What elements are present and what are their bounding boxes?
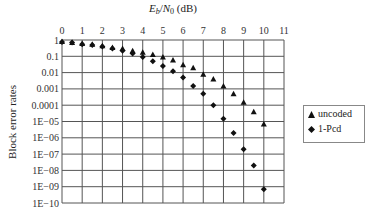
y-tick-label: 1E−07 <box>32 149 59 160</box>
y-tick-label: 1E−08 <box>32 165 59 176</box>
y-tick-label: 1E−06 <box>32 132 59 143</box>
y-tick-label: 0.001 <box>37 83 60 94</box>
diamond-marker-icon <box>308 126 315 133</box>
x-tick-label: 7 <box>201 25 206 36</box>
triangle-marker-icon <box>241 99 247 105</box>
diamond-marker-icon <box>130 50 136 56</box>
diamond-marker-icon <box>231 130 237 136</box>
y-axis-title: Block error rates <box>6 85 18 159</box>
triangle-marker-icon <box>251 109 257 115</box>
x-tick-label: 0 <box>60 25 65 36</box>
diamond-marker-icon <box>200 91 206 97</box>
triangle-marker-icon <box>308 111 315 118</box>
legend-label: 1-Pcd <box>318 123 341 134</box>
triangle-marker-icon <box>210 76 216 82</box>
x-tick-label: 4 <box>140 25 145 36</box>
diamond-marker-icon <box>109 46 115 52</box>
legend-item-uncoded: uncoded <box>304 106 364 121</box>
x-tick-label: 6 <box>181 25 186 36</box>
triangle-marker-icon <box>200 71 206 77</box>
y-tick-label: 0.1 <box>47 51 60 62</box>
legend-label: uncoded <box>318 108 352 119</box>
diamond-marker-icon <box>251 162 257 168</box>
diamond-marker-icon <box>150 58 156 64</box>
diamond-marker-icon <box>220 116 226 122</box>
x-tick-label: 5 <box>160 25 165 36</box>
y-tick-label: 1 <box>54 35 59 46</box>
triangle-marker-icon <box>190 65 196 71</box>
x-tick-label: 10 <box>259 25 269 36</box>
triangle-marker-icon <box>220 83 226 89</box>
diamond-marker-icon <box>79 41 85 47</box>
y-tick-label: 1E−10 <box>32 198 59 209</box>
triangle-marker-icon <box>231 91 237 97</box>
x-tick-label: 1 <box>80 25 85 36</box>
x-axis-title: Eb/N0 (dB) <box>148 2 197 16</box>
y-tick-label: 0.01 <box>42 67 60 78</box>
diamond-marker-icon <box>140 54 146 60</box>
x-tick-label: 9 <box>241 25 246 36</box>
diamond-marker-icon <box>190 83 196 89</box>
diamond-marker-icon <box>89 42 95 48</box>
diamond-marker-icon <box>160 63 166 69</box>
diamond-marker-icon <box>170 68 176 74</box>
x-tick-label: 2 <box>100 25 105 36</box>
diamond-marker-icon <box>99 43 105 49</box>
y-axis-ticks: 10.10.010.0010.00011E−051E−061E−071E−081… <box>32 35 60 209</box>
triangle-marker-icon <box>150 51 156 57</box>
y-tick-label: 1E−09 <box>32 181 59 192</box>
grid-lines <box>62 40 284 203</box>
x-axis-ticks: 01234567891011 <box>60 25 289 36</box>
triangle-marker-icon <box>180 62 186 68</box>
triangle-marker-icon <box>140 49 146 55</box>
triangle-marker-icon <box>170 57 176 63</box>
y-tick-label: 1E−05 <box>32 116 59 127</box>
x-tick-label: 8 <box>221 25 226 36</box>
diamond-marker-icon <box>180 75 186 81</box>
diamond-marker-icon <box>210 102 216 108</box>
diamond-marker-icon <box>120 48 126 54</box>
legend-item-1-pcd: 1-Pcd <box>304 121 364 136</box>
diamond-marker-icon <box>241 146 247 152</box>
y-tick-label: 0.0001 <box>32 100 60 111</box>
legend: uncoded 1-Pcd <box>303 105 365 143</box>
x-tick-label: 11 <box>279 25 289 36</box>
x-tick-label: 3 <box>120 25 125 36</box>
